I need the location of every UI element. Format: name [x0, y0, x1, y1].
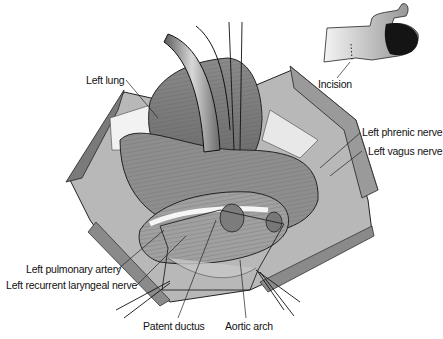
label-left-pulmonary-artery: Left pulmonary artery — [26, 263, 121, 275]
label-left-vagus-nerve: Left vagus nerve — [368, 145, 442, 157]
label-incision: Incision — [318, 78, 352, 90]
label-patent-ductus: Patent ductus — [143, 320, 205, 332]
label-left-lung: Left lung — [86, 74, 124, 86]
label-left-phrenic-nerve: Left phrenic nerve — [362, 126, 442, 138]
patient-inset — [324, 4, 418, 78]
label-left-recurrent-laryngeal-nerve: Left recurrent laryngeal nerve — [6, 279, 137, 291]
label-aortic-arch: Aortic arch — [225, 320, 273, 332]
